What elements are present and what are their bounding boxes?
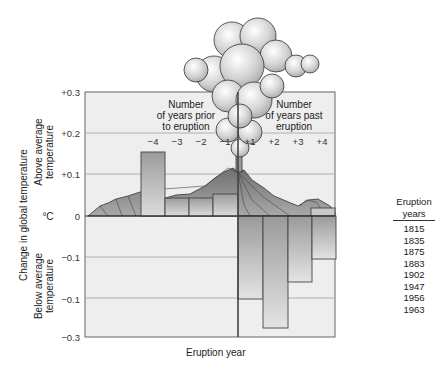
legend-year: 1875 [393,246,435,258]
legend-year: 1956 [393,292,435,304]
legend-title: Eruption years [393,196,435,221]
bar-minus-2 [189,198,213,216]
legend-year: 1815 [393,223,435,235]
svg-text:−3: −3 [172,136,183,147]
y-tick-labels: +0.3 +0.2 +0.1 0 −0.1 −0.1 −0.3 [61,87,80,343]
svg-text:Number: Number [168,99,204,110]
above-average-label-2: temperature [44,125,55,179]
svg-text:Number: Number [276,99,312,110]
legend-year: 1902 [393,269,435,281]
svg-text:+3: +3 [293,136,304,147]
below-average-label: Below average [33,252,44,319]
svg-text:−0.3: −0.3 [61,332,80,343]
small-box-plus-4-above [311,208,335,216]
y-axis-title: Change in global temperature [18,149,29,281]
svg-text:−2: −2 [196,136,207,147]
svg-text:eruption: eruption [276,121,312,132]
svg-text:+0.3: +0.3 [61,87,80,98]
chart: +0.3 +0.2 +0.1 0 −0.1 −0.1 −0.3 Change i… [0,0,435,375]
svg-text:−4: −4 [148,136,159,147]
svg-text:−0.1: −0.1 [61,252,80,263]
svg-text:+1: +1 [245,136,256,147]
bar-plus-4 [312,216,336,259]
x-axis-title: Eruption year [186,347,245,358]
svg-text:+0.1: +0.1 [61,169,80,180]
legend-year: 1963 [393,304,435,316]
below-average-label-2: temperature [44,259,55,313]
bar-minus-4 [141,152,165,216]
svg-text:of years past: of years past [265,110,322,121]
svg-text:to eruption: to eruption [162,121,209,132]
bar-plus-1 [238,216,263,299]
svg-text:+4: +4 [317,136,328,147]
svg-text:0: 0 [75,211,80,222]
svg-text:+2: +2 [269,136,280,147]
bar-minus-3 [165,198,189,216]
bar-minus-1 [213,194,238,216]
legend-year: 1883 [393,258,435,270]
bar-plus-3 [288,216,312,282]
bar-plus-2 [263,216,288,328]
svg-text:of years prior: of years prior [157,110,216,121]
legend-eruption-years: Eruption years 1815 1835 1875 1883 1902 … [393,196,435,315]
legend-year: 1947 [393,281,435,293]
svg-text:−0.1: −0.1 [61,294,80,305]
svg-text:−1: −1 [220,136,231,147]
unit-label: °C [42,211,53,222]
above-average-label: Above average [33,118,44,186]
legend-year: 1835 [393,235,435,247]
svg-text:+0.2: +0.2 [61,128,80,139]
